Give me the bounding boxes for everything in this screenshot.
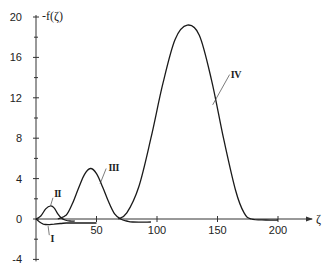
y-tick-label: 8: [16, 132, 22, 144]
y-tick-label: 4: [16, 173, 22, 185]
y-axis-label: -f(ζ): [42, 9, 63, 23]
x-tick-label: 200: [269, 224, 287, 236]
curve-label-iv: IV: [231, 69, 242, 80]
x-axis-label: ζ: [316, 212, 321, 226]
x-tick-label: 150: [208, 224, 226, 236]
y-tick-label: -4: [12, 253, 22, 265]
curve-label-ii: II: [54, 188, 61, 199]
curve-iv: [118, 25, 278, 220]
y-tick-label: 16: [10, 51, 22, 63]
chart-plot: -404812162050100150200 IIIIIIIV -f(ζ) ζ: [0, 0, 326, 272]
y-tick-label: 12: [10, 92, 22, 104]
axis-ticks: -404812162050100150200: [10, 11, 287, 265]
curves: [36, 25, 278, 225]
curve-iii: [58, 168, 151, 222]
curve-label-iii: III: [109, 162, 120, 173]
x-axis-arrow-icon: [306, 217, 313, 222]
x-tick-label: 50: [90, 224, 102, 236]
x-tick-label: 100: [148, 224, 166, 236]
y-tick-label: 20: [10, 11, 22, 23]
y-tick-label: 0: [16, 213, 22, 225]
curve-label-i: I: [51, 233, 55, 244]
curve-labels: IIIIIIIV: [48, 69, 242, 245]
